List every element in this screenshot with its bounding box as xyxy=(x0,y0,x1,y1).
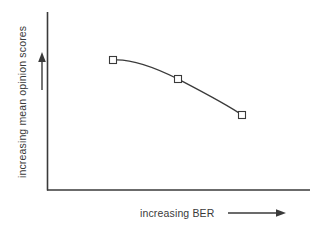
chart-background xyxy=(0,0,325,229)
chart-figure: increasing mean opinion scores increasin… xyxy=(0,0,325,229)
data-point-marker xyxy=(110,57,117,64)
chart-canvas: increasing mean opinion scores increasin… xyxy=(0,0,325,229)
y-axis-label-text: increasing mean opinion scores xyxy=(16,26,28,178)
data-point-marker xyxy=(175,76,182,83)
data-point-marker xyxy=(239,112,246,119)
x-axis-label-text: increasing BER xyxy=(140,207,215,219)
y-axis-label: increasing mean opinion scores xyxy=(16,26,28,178)
